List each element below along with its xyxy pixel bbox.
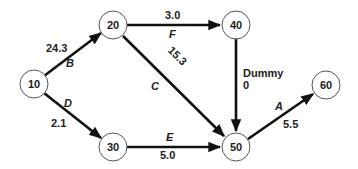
activity-label-C: C bbox=[151, 80, 160, 92]
activity-label-dummy: Dummy bbox=[243, 67, 284, 79]
duration-label-F: 3.0 bbox=[165, 9, 180, 21]
node-label-40: 40 bbox=[230, 19, 242, 31]
network-diagram: 24.3 B D 2.1 3.0 F 15.3 C E 5.0 Dummy 0 … bbox=[0, 0, 358, 169]
activity-label-E: E bbox=[166, 131, 174, 143]
activity-label-A: A bbox=[274, 100, 283, 112]
node-30: 30 bbox=[99, 133, 127, 161]
duration-label-C: 15.3 bbox=[166, 44, 190, 68]
node-label-50: 50 bbox=[230, 141, 242, 153]
node-40: 40 bbox=[222, 11, 250, 39]
activity-label-B: B bbox=[66, 57, 74, 69]
duration-label-B: 24.3 bbox=[46, 42, 67, 54]
node-10: 10 bbox=[20, 70, 48, 98]
node-label-10: 10 bbox=[28, 78, 40, 90]
activity-label-D: D bbox=[64, 97, 72, 109]
node-50: 50 bbox=[222, 133, 250, 161]
duration-label-D: 2.1 bbox=[51, 117, 66, 129]
activity-label-F: F bbox=[169, 28, 176, 40]
duration-label-E: 5.0 bbox=[160, 149, 175, 161]
node-20: 20 bbox=[99, 11, 127, 39]
edge-10-30-D bbox=[44, 93, 101, 138]
node-label-20: 20 bbox=[107, 19, 119, 31]
node-label-60: 60 bbox=[320, 79, 332, 91]
node-60: 60 bbox=[312, 71, 340, 99]
duration-label-A: 5.5 bbox=[283, 118, 298, 130]
node-label-30: 30 bbox=[107, 141, 119, 153]
duration-label-dummy: 0 bbox=[243, 79, 249, 91]
edge-10-20-B bbox=[44, 33, 101, 76]
